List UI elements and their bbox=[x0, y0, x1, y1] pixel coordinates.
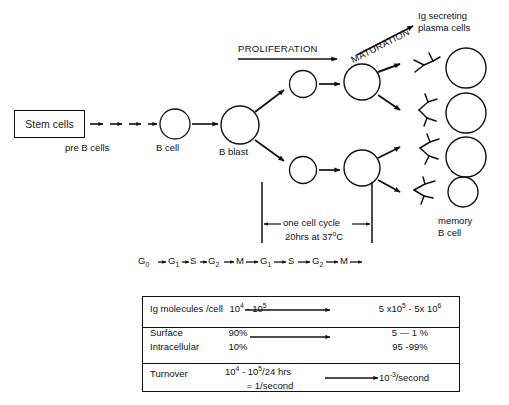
stem-cells-box: Stem cells bbox=[14, 110, 85, 138]
phase-g2: G2 bbox=[208, 255, 219, 266]
phase-m: M bbox=[236, 255, 244, 266]
b-cell-label: B cell bbox=[156, 142, 179, 153]
table-row-2-label: Surface bbox=[150, 327, 183, 338]
phase-s: S bbox=[288, 255, 294, 266]
table-row-3-before: 104 - 105/24 hrs bbox=[225, 366, 291, 377]
plasma-cell-1 bbox=[446, 48, 486, 88]
antibody-icon-2 bbox=[419, 94, 437, 126]
cell-cycle-duration-label: 20hrs at 37oC bbox=[285, 231, 343, 242]
duration-unit: C bbox=[336, 231, 343, 242]
b-blast-label: B blast bbox=[219, 146, 248, 157]
phase-g0: G0 bbox=[138, 255, 149, 266]
table-row-3-before-2: = 1/second bbox=[247, 380, 294, 391]
memory-b-cell-label-line2: B cell bbox=[438, 227, 461, 238]
proliferation-label: PROLIFERATION bbox=[238, 43, 318, 54]
antibody-icon-4 bbox=[414, 177, 435, 204]
table-row-2-label-2: Intracellular bbox=[150, 341, 199, 352]
table-divider-2 bbox=[143, 363, 459, 364]
table-row-2-after: 5 — 1 % bbox=[392, 327, 428, 338]
table-row-3-label: Turnover bbox=[150, 368, 188, 379]
table-row-1-after: 5 x105 - 5x 106 bbox=[379, 303, 442, 314]
one-cell-cycle-label: one cell cycle bbox=[283, 217, 340, 228]
antibody-icon-3 bbox=[420, 134, 439, 164]
plasma-cell-2 bbox=[446, 93, 486, 133]
phase-g2: G2 bbox=[312, 255, 323, 266]
table-row-2-after-2: 95 -99% bbox=[392, 341, 427, 352]
second-gen-blast-upper bbox=[344, 64, 380, 100]
memory-b-cell-circle bbox=[448, 177, 478, 207]
plasma-cells-label-line2: plasma cells bbox=[418, 22, 470, 33]
maturation-branch-arrows bbox=[378, 64, 400, 192]
phase-g1: G1 bbox=[260, 255, 271, 266]
antibody-icon-1 bbox=[414, 53, 440, 72]
table-row-1-label: Ig molecules /cell bbox=[150, 303, 223, 314]
duration-value: 20hrs at 37 bbox=[285, 231, 333, 242]
stem-cells-label: Stem cells bbox=[15, 111, 84, 137]
phase-m: M bbox=[340, 255, 348, 266]
daughter-cell-lower bbox=[290, 157, 317, 184]
table-row-3-after: 10-3/second bbox=[379, 372, 429, 383]
b-cell-circle bbox=[160, 109, 190, 139]
b-blast-circle bbox=[221, 106, 259, 144]
table-row-2-before: 90% bbox=[228, 327, 247, 338]
phase-g1: G1 bbox=[168, 255, 179, 266]
table-row-1-before: 104 - 105 bbox=[229, 303, 266, 314]
daughter-cell-upper bbox=[290, 71, 317, 98]
plasma-cells-label-line1: Ig secreting bbox=[418, 10, 467, 21]
memory-b-cell-label-line1: memory bbox=[438, 215, 472, 226]
pre-b-cells-label: pre B cells bbox=[65, 142, 109, 153]
phase-s: S bbox=[190, 255, 196, 266]
table-row-2-before-2: 10% bbox=[228, 341, 247, 352]
plasma-cell-3 bbox=[446, 137, 486, 177]
second-gen-blast-lower bbox=[344, 150, 380, 186]
